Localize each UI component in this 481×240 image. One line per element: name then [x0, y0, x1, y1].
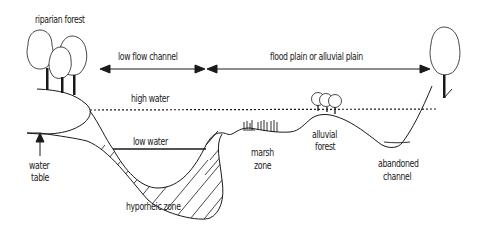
label-abandoned-channel-line1: abandoned: [378, 158, 419, 169]
left-bank-contour: [27, 89, 90, 134]
label-alluvial-forest-line2: forest: [315, 141, 335, 152]
riparian-forest-trees-icon: [27, 30, 87, 95]
label-marsh-zone-line2: zone: [254, 160, 271, 171]
label-low-flow-channel: low flow channel: [118, 51, 178, 62]
high-water-line: [90, 109, 436, 110]
label-high-water: high water: [131, 93, 169, 104]
label-water-table-line1: water: [29, 160, 49, 171]
flood-plain-arrow: [207, 65, 430, 73]
low-flow-channel-arrow: [100, 65, 205, 73]
label-flood-plain: flood plain or alluvial plain: [270, 51, 363, 62]
label-marsh-zone-line1: marsh: [251, 147, 274, 158]
alluvial-forest-trees-icon: [312, 93, 342, 115]
label-alluvial-forest-line1: alluvial: [312, 129, 337, 140]
label-low-water: low water: [133, 136, 168, 147]
diagram-drawing: [0, 0, 481, 240]
label-water-table-line2: table: [31, 172, 49, 183]
label-abandoned-channel-line2: channel: [383, 171, 411, 182]
label-riparian-forest: riparian forest: [35, 14, 85, 25]
right-bank-tree-icon: [430, 27, 460, 98]
label-hyporheic-zone: hyporheic zone: [126, 201, 181, 212]
water-table-arrow: [36, 133, 44, 156]
river-cross-section-diagram: riparian forest low flow channel flood p…: [0, 0, 481, 240]
